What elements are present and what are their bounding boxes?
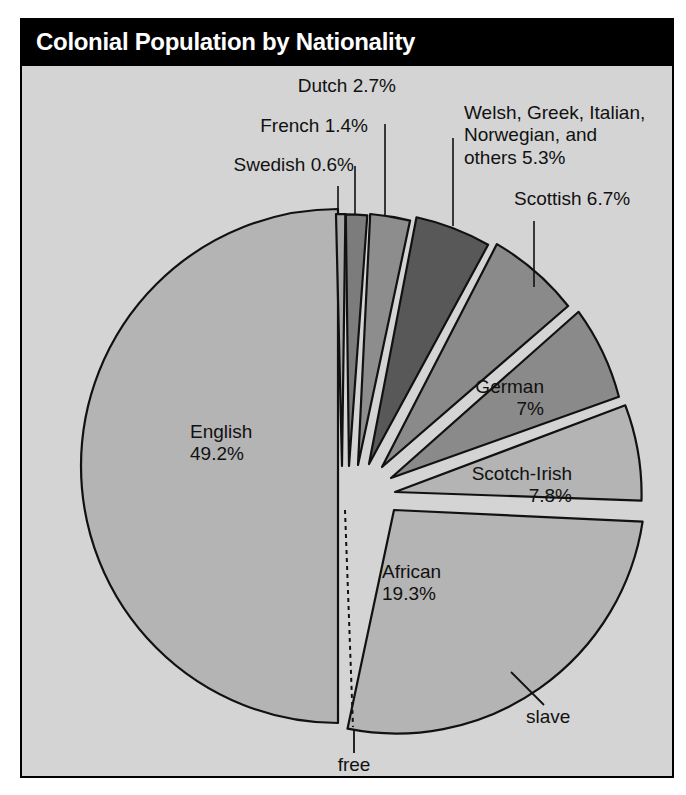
label-french: French 1.4% [48, 115, 368, 137]
label-scotch-irish: Scotch-Irish 7.8% [402, 463, 572, 508]
pie-slice-english[interactable] [81, 209, 338, 723]
label-dutch: Dutch 2.7% [48, 75, 396, 97]
label-scottish: Scottish 6.7% [514, 188, 672, 210]
label-german: German 7% [422, 376, 544, 421]
label-others: Welsh, Greek, Italian, Norwegian, and ot… [464, 102, 672, 169]
plot-area: Swedish 0.6% French 1.4% Dutch 2.7% Wels… [22, 66, 672, 776]
label-english: English 49.2% [190, 421, 350, 466]
page-title: Colonial Population by Nationality [20, 28, 415, 56]
african-free-divider [345, 510, 353, 727]
pie-slice-african[interactable] [348, 510, 643, 734]
title-bar: Colonial Population by Nationality [20, 18, 674, 66]
label-free: free [314, 754, 394, 776]
label-swedish: Swedish 0.6% [48, 154, 354, 176]
label-slave: slave [526, 706, 636, 728]
figure-container: Colonial Population by Nationality [0, 0, 686, 795]
label-african: African 19.3% [382, 561, 532, 606]
